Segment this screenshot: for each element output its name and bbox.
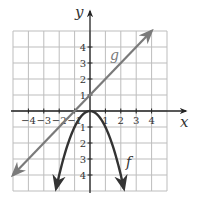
y-tick-label: 3 (80, 154, 86, 165)
y-tick-label: 2 (80, 138, 86, 149)
y-tick-label: 1 (80, 122, 86, 133)
x-tick-label: 3 (133, 115, 139, 126)
y-tick-label: 2 (80, 74, 86, 85)
f-function-label: f (125, 154, 134, 170)
y-axis-label: y (74, 3, 84, 21)
y-tick-label: 4 (80, 42, 86, 53)
x-axis-label: x (180, 113, 189, 131)
coordinate-plane: −4−3−2−1123443211234 y x g f (0, 0, 198, 201)
x-tick-label: −3 (36, 115, 51, 126)
y-tick-label: 4 (80, 170, 86, 181)
g-function-label: g (110, 47, 119, 63)
x-tick-label: 4 (148, 115, 154, 126)
axes (11, 11, 186, 193)
x-tick-label: 2 (118, 115, 124, 126)
x-tick-label: −4 (21, 115, 36, 126)
y-tick-label: 3 (80, 58, 86, 69)
